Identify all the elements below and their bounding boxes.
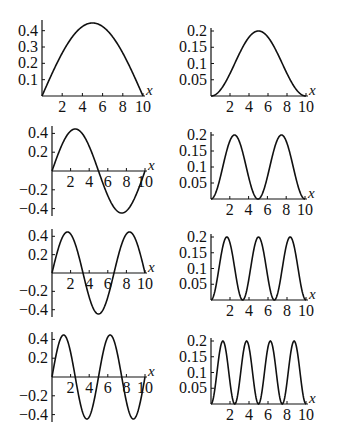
y-tick-label: 0.4 [28, 227, 48, 244]
chart-psi4: x246810−0.4−0.20.20.4 [19, 330, 155, 422]
x-tick-label: 4 [85, 173, 93, 190]
y-tick-label: −0.4 [19, 406, 48, 423]
y-tick-label: 0.2 [18, 54, 38, 71]
y-tick-label: 0.05 [179, 71, 207, 88]
x-tick-label: 10 [137, 275, 153, 292]
x-tick-label: 2 [67, 275, 75, 292]
x-axis-label: x [147, 157, 155, 173]
y-tick-label: 0.05 [179, 379, 207, 396]
y-tick-label: 0.15 [179, 142, 207, 159]
y-tick-label: 0.15 [179, 38, 207, 55]
x-axis-label: x [308, 390, 316, 406]
x-tick-label: 2 [58, 98, 66, 115]
chart-prob4: x2468100.050.10.150.2 [179, 332, 316, 423]
x-tick-label: 2 [226, 98, 234, 115]
plot-grid: x2468100.10.20.30.4x2468100.050.10.150.2… [0, 0, 340, 441]
y-tick-label: 0.4 [18, 22, 38, 39]
x-axis-label: x [308, 82, 316, 98]
y-tick-label: −0.4 [19, 200, 48, 217]
y-tick-label: 0.2 [28, 143, 48, 160]
x-tick-label: 8 [119, 98, 127, 115]
x-tick-label: 2 [226, 201, 234, 218]
y-tick-label: 0.4 [28, 330, 48, 347]
y-tick-label: −0.4 [19, 301, 48, 318]
x-tick-label: 4 [245, 302, 253, 319]
y-tick-label: 0.2 [187, 332, 207, 349]
figure: x2468100.10.20.30.4x2468100.050.10.150.2… [0, 0, 340, 441]
y-tick-label: 0.15 [179, 244, 207, 261]
x-tick-label: 8 [283, 406, 291, 423]
chart-prob3: x2468100.050.10.150.2 [179, 228, 316, 319]
chart-prob1: x2468100.050.10.150.2 [179, 22, 316, 115]
x-tick-label: 8 [283, 98, 291, 115]
x-tick-label: 2 [67, 173, 75, 190]
x-tick-label: 4 [85, 379, 93, 396]
x-tick-label: 6 [104, 379, 112, 396]
x-axis-label: x [308, 286, 316, 302]
y-tick-label: 0.1 [187, 158, 207, 175]
curve-prob1 [211, 31, 306, 96]
x-tick-label: 8 [122, 173, 130, 190]
y-tick-label: 0.3 [18, 38, 38, 55]
x-tick-label: 10 [298, 302, 314, 319]
x-tick-label: 10 [297, 201, 313, 218]
y-tick-label: 0.05 [179, 275, 207, 292]
x-tick-label: 6 [99, 98, 107, 115]
x-tick-label: 10 [298, 98, 314, 115]
x-axis-label: x [147, 363, 155, 379]
x-tick-label: 4 [245, 406, 253, 423]
y-tick-label: 0.2 [187, 22, 207, 39]
y-tick-label: 0.1 [187, 260, 207, 277]
x-tick-label: 6 [264, 302, 272, 319]
x-axis-label: x [307, 185, 315, 201]
x-tick-label: 6 [263, 201, 271, 218]
x-tick-label: 4 [245, 201, 253, 218]
y-tick-label: 0.2 [28, 349, 48, 366]
x-tick-label: 8 [283, 302, 291, 319]
x-tick-label: 4 [245, 98, 253, 115]
chart-psi2: x246810−0.4−0.20.20.4 [19, 124, 155, 216]
chart-psi1: x2468100.10.20.30.4 [18, 20, 153, 115]
x-tick-label: 4 [78, 98, 86, 115]
x-axis-label: x [147, 259, 155, 275]
x-tick-label: 6 [264, 406, 272, 423]
y-tick-label: 0.2 [187, 228, 207, 245]
y-tick-label: 0.2 [28, 246, 48, 263]
y-tick-label: 0.1 [18, 71, 38, 88]
y-tick-label: −0.2 [19, 282, 48, 299]
y-tick-label: −0.2 [19, 387, 48, 404]
curve-psi1 [42, 23, 143, 96]
x-tick-label: 6 [264, 98, 272, 115]
x-tick-label: 10 [135, 98, 151, 115]
x-tick-label: 10 [298, 406, 314, 423]
x-tick-label: 8 [122, 275, 130, 292]
chart-psi3: x246810−0.4−0.20.20.4 [19, 227, 155, 317]
x-axis-label: x [145, 82, 153, 98]
curve-prob3 [211, 237, 306, 300]
y-tick-label: 0.2 [187, 126, 207, 143]
curve-prob4 [211, 341, 306, 404]
y-tick-label: 0.1 [187, 55, 207, 72]
x-tick-label: 2 [67, 379, 75, 396]
curve-prob2 [211, 135, 305, 199]
y-tick-label: 0.4 [28, 124, 48, 141]
y-tick-label: 0.1 [187, 364, 207, 381]
x-tick-label: 2 [226, 406, 234, 423]
y-tick-label: 0.05 [179, 174, 207, 191]
y-tick-label: −0.2 [19, 181, 48, 198]
chart-prob2: x2468100.050.10.150.2 [179, 126, 315, 218]
x-tick-label: 8 [282, 201, 290, 218]
x-tick-label: 2 [226, 302, 234, 319]
y-tick-label: 0.15 [179, 348, 207, 365]
